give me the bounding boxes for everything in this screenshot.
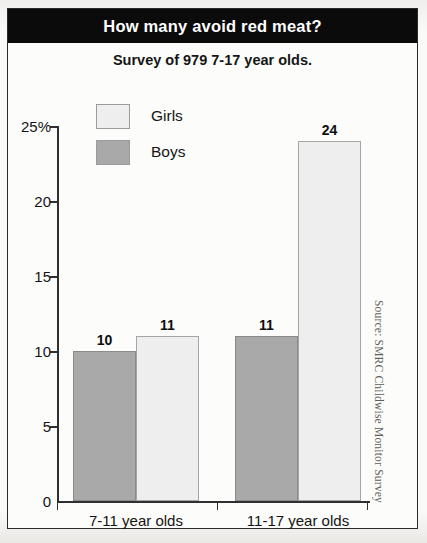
title-banner: How many avoid red meat?: [8, 9, 417, 43]
x-axis-line: [57, 501, 370, 503]
y-axis-tick-mark: [50, 351, 58, 353]
x-axis-group-label: 7-11 year olds: [89, 512, 183, 529]
y-axis-tick-label: 0: [43, 493, 51, 510]
page-title: How many avoid red meat?: [103, 17, 321, 36]
bar-girls-group-2: [298, 141, 361, 501]
chart-subtitle: Survey of 979 7-17 year olds.: [8, 52, 417, 68]
y-axis-tick-label: 25%: [21, 118, 51, 135]
source-note: Source: SMRC Childwise Monitor Survey: [373, 300, 385, 503]
x-axis-tick-mark: [217, 501, 218, 510]
legend-label-girls: Girls: [151, 107, 183, 125]
y-axis-line: [57, 126, 59, 501]
bar-value-label: 11: [259, 317, 274, 333]
y-axis-tick-mark: [50, 426, 58, 428]
bar-value-label: 10: [97, 332, 113, 348]
x-axis-tick-mark: [367, 501, 368, 510]
y-axis-tick-label: 15: [34, 268, 51, 285]
x-axis-tick-mark: [57, 501, 58, 510]
legend-swatch-girls-icon: [96, 104, 130, 129]
y-axis-tick-label: 20: [34, 193, 51, 210]
y-axis-tick-label: 10: [34, 343, 51, 360]
bar-boys-group-1: [73, 351, 136, 501]
y-axis-tick-mark: [50, 126, 58, 128]
bar-value-label: 11: [160, 317, 175, 333]
y-axis-tick-mark: [50, 201, 58, 203]
chart-figure: How many avoid red meat? Survey of 979 7…: [0, 0, 427, 543]
bar-boys-group-2: [235, 336, 298, 501]
y-axis-tick-mark: [50, 276, 58, 278]
x-axis-group-label: 11-17 year olds: [247, 512, 349, 529]
plot-area: 25%2015105010117-11 year olds112411-17 y…: [57, 126, 369, 501]
y-axis-tick-label: 5: [43, 418, 51, 435]
bar-girls-group-1: [136, 336, 199, 501]
bar-value-label: 24: [322, 122, 338, 138]
